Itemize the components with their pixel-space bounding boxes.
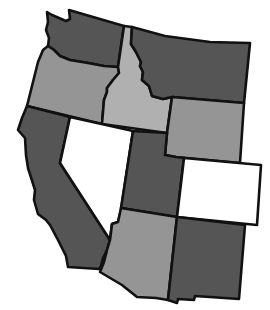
state-wyoming[interactable]: [165, 97, 244, 163]
state-colorado[interactable]: [177, 158, 261, 225]
western-us-map: [0, 0, 270, 310]
state-new-mexico[interactable]: [168, 217, 245, 303]
